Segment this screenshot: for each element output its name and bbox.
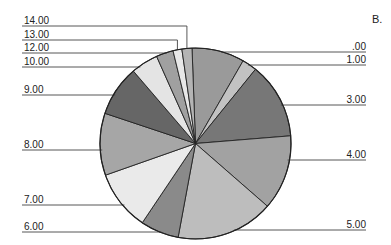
- pie-chart: .001.003.004.005.006.007.008.009.0010.00…: [0, 0, 391, 245]
- slice-label: 12.00: [24, 42, 49, 53]
- slice-label: 8.00: [24, 139, 44, 150]
- slice-label: 10.00: [24, 56, 49, 67]
- slice-label: 9.00: [24, 84, 44, 95]
- slice-label: 1.00: [347, 54, 367, 65]
- slice-label: 4.00: [347, 149, 367, 160]
- slice-label: .00: [352, 41, 366, 52]
- slice-label: 6.00: [24, 221, 44, 232]
- slice-label: 5.00: [347, 219, 367, 230]
- pie-slices: [100, 48, 291, 239]
- slice-label: 13.00: [24, 29, 49, 40]
- slice-label: 14.00: [24, 15, 49, 26]
- slice-label: 7.00: [24, 194, 44, 205]
- slice-label: 3.00: [347, 94, 367, 105]
